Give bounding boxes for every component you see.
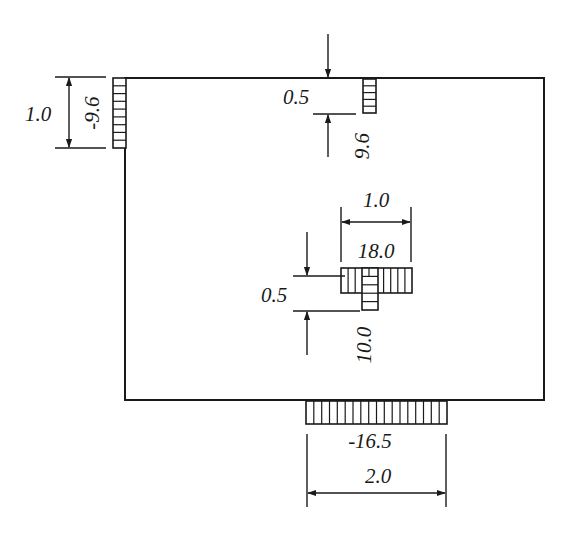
diagram-canvas: 1.0 -9.6 0.5 9.6 bbox=[0, 0, 576, 538]
bottom-dimension: -16.5 2.0 bbox=[307, 429, 446, 507]
diagram-svg: 1.0 -9.6 0.5 9.6 bbox=[0, 0, 576, 538]
bottom-width-label: 2.0 bbox=[365, 464, 392, 488]
left-load-label: -9.6 bbox=[80, 96, 104, 130]
center-v-load-label: 10.0 bbox=[352, 326, 376, 363]
top-strip bbox=[363, 79, 376, 113]
left-width-label: 1.0 bbox=[25, 102, 52, 126]
center-h-load-label: 18.0 bbox=[358, 239, 395, 263]
plate-outline bbox=[125, 78, 544, 400]
bottom-load-label: -16.5 bbox=[348, 429, 392, 453]
top-load-label: 9.6 bbox=[350, 132, 374, 159]
left-edge-strip bbox=[113, 78, 126, 148]
bottom-strip bbox=[306, 401, 447, 424]
center-vertical-strip bbox=[362, 268, 378, 310]
left-dimension: 1.0 -9.6 bbox=[25, 77, 106, 148]
center-v-width-label: 0.5 bbox=[261, 283, 287, 307]
top-width-label: 0.5 bbox=[283, 85, 309, 109]
center-h-width-label: 1.0 bbox=[363, 188, 390, 212]
